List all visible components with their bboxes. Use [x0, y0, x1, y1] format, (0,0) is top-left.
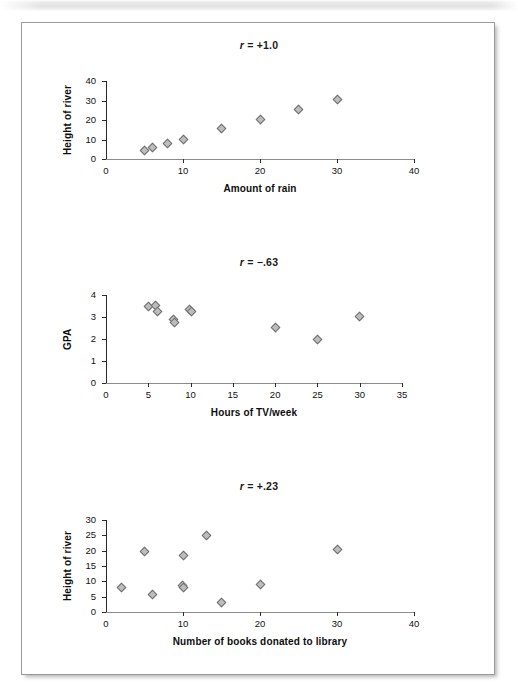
correlation-symbol-3: r — [240, 480, 244, 492]
y-axis-title-2: GPA — [62, 328, 73, 349]
y-axis-line-2 — [106, 295, 107, 383]
x-tick-label-1-0: 0 — [93, 166, 119, 176]
x-tick-label-3-4: 40 — [401, 619, 427, 629]
correlation-value-3: = +.23 — [247, 480, 278, 492]
x-tick-label-2-4: 20 — [262, 390, 288, 400]
y-tick-label-2-1: 1 — [70, 356, 96, 366]
data-point — [294, 105, 304, 115]
data-point — [255, 115, 265, 125]
scatter-panel-2: r = −.63 0123405101520253035Hours of TV/… — [22, 238, 496, 458]
y-tick-label-3-5: 25 — [70, 530, 96, 540]
data-point — [116, 583, 126, 593]
y-tick-3-3 — [102, 566, 106, 567]
data-point — [217, 124, 227, 134]
x-tick-label-3-0: 0 — [93, 619, 119, 629]
data-point — [201, 530, 211, 540]
x-tick-2-6 — [360, 383, 361, 387]
y-tick-1-3 — [102, 101, 106, 102]
y-tick-label-3-3: 15 — [70, 561, 96, 571]
x-axis-title-3: Number of books donated to library — [106, 636, 414, 647]
x-tick-3-2 — [260, 612, 261, 616]
x-tick-label-3-1: 10 — [170, 619, 196, 629]
y-tick-label-1-1: 10 — [70, 135, 96, 145]
data-point — [332, 544, 342, 554]
y-tick-label-3-0: 0 — [70, 607, 96, 617]
x-tick-2-4 — [275, 383, 276, 387]
x-tick-1-3 — [337, 159, 338, 163]
top-bar-right-fade — [492, 0, 518, 11]
x-tick-3-3 — [337, 612, 338, 616]
y-tick-3-5 — [102, 535, 106, 536]
data-point — [355, 311, 365, 321]
x-tick-label-2-0: 0 — [93, 390, 119, 400]
plot-area-2: 0123405101520253035Hours of TV/weekGPA — [106, 295, 402, 383]
data-point — [217, 598, 227, 608]
y-tick-label-2-0: 0 — [70, 378, 96, 388]
y-tick-3-0 — [102, 612, 106, 613]
y-tick-2-3 — [102, 317, 106, 318]
data-point — [255, 579, 265, 589]
y-tick-3-4 — [102, 551, 106, 552]
y-axis-line-3 — [106, 520, 107, 612]
top-decorative-bar — [0, 0, 518, 11]
y-tick-3-2 — [102, 581, 106, 582]
y-tick-1-0 — [102, 159, 106, 160]
correlation-label-2: r = −.63 — [22, 256, 496, 268]
x-tick-label-2-7: 35 — [389, 390, 415, 400]
data-point — [332, 95, 342, 105]
y-tick-label-3-6: 30 — [70, 515, 96, 525]
x-tick-label-3-3: 30 — [324, 619, 350, 629]
plot-area-3: 051015202530010203040Number of books don… — [106, 520, 414, 612]
y-tick-label-1-4: 40 — [70, 76, 96, 86]
x-tick-label-1-3: 30 — [324, 166, 350, 176]
y-tick-label-2-3: 3 — [70, 312, 96, 322]
y-tick-label-3-2: 10 — [70, 576, 96, 586]
x-tick-label-2-6: 30 — [347, 390, 373, 400]
x-tick-label-2-1: 5 — [135, 390, 161, 400]
y-tick-1-1 — [102, 140, 106, 141]
data-point — [153, 307, 163, 317]
y-tick-label-1-0: 0 — [70, 154, 96, 164]
figure-frame: r = +1.0 010203040010203040Amount of rai… — [21, 22, 495, 675]
data-point — [140, 547, 150, 557]
data-point — [178, 134, 188, 144]
x-tick-3-4 — [414, 612, 415, 616]
correlation-value-2: = −.63 — [247, 256, 278, 268]
x-tick-label-2-3: 15 — [220, 390, 246, 400]
correlation-symbol-1: r — [240, 39, 244, 51]
x-tick-2-3 — [233, 383, 234, 387]
correlation-label-3: r = +.23 — [22, 480, 496, 492]
data-point — [178, 551, 188, 561]
x-tick-2-2 — [191, 383, 192, 387]
y-tick-2-0 — [102, 383, 106, 384]
y-tick-label-2-2: 2 — [70, 334, 96, 344]
data-point — [312, 335, 322, 345]
y-tick-label-2-4: 4 — [70, 290, 96, 300]
x-tick-label-1-2: 20 — [247, 166, 273, 176]
y-tick-label-3-1: 5 — [70, 592, 96, 602]
x-tick-2-1 — [148, 383, 149, 387]
correlation-symbol-2: r — [240, 256, 244, 268]
y-axis-title-1: Height of river — [62, 85, 73, 155]
x-tick-2-7 — [402, 383, 403, 387]
x-tick-1-2 — [260, 159, 261, 163]
y-tick-2-4 — [102, 295, 106, 296]
x-tick-label-2-5: 25 — [304, 390, 330, 400]
y-tick-1-2 — [102, 120, 106, 121]
x-tick-3-1 — [183, 612, 184, 616]
x-tick-label-1-4: 40 — [401, 166, 427, 176]
y-tick-label-1-3: 30 — [70, 96, 96, 106]
x-tick-label-2-2: 10 — [178, 390, 204, 400]
y-tick-3-1 — [102, 597, 106, 598]
scatter-panel-1: r = +1.0 010203040010203040Amount of rai… — [22, 23, 496, 238]
top-bar-left-fade — [0, 0, 42, 11]
x-axis-line-2 — [106, 383, 402, 384]
scatter-panel-3: r = +.23 051015202530010203040Number of … — [22, 458, 496, 676]
x-tick-label-3-2: 20 — [247, 619, 273, 629]
data-point — [147, 589, 157, 599]
y-tick-2-2 — [102, 339, 106, 340]
x-tick-1-4 — [414, 159, 415, 163]
y-axis-line-1 — [106, 81, 107, 159]
x-axis-title-1: Amount of rain — [106, 183, 414, 194]
correlation-label-1: r = +1.0 — [22, 39, 496, 51]
